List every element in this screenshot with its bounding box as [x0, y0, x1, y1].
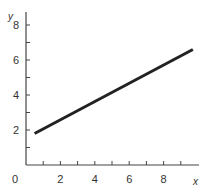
tick-labels: 24682468 [13, 19, 167, 185]
x-tick-label: 2 [57, 173, 63, 185]
line-chart: 24682468 y x 0 [0, 0, 207, 190]
y-tick-label: 8 [13, 19, 19, 31]
ticks [26, 25, 181, 165]
x-tick-label: 4 [92, 173, 98, 185]
data-series [35, 50, 193, 134]
x-axis-label: x [192, 176, 199, 187]
y-tick-label: 4 [13, 89, 19, 101]
y-axis-label: y [7, 11, 14, 22]
y-tick-label: 2 [13, 124, 19, 136]
x-tick-label: 8 [161, 173, 167, 185]
data-line [35, 50, 193, 134]
origin-label: 0 [12, 173, 18, 185]
x-tick-label: 6 [126, 173, 132, 185]
y-tick-label: 6 [13, 54, 19, 66]
axes [26, 12, 199, 165]
